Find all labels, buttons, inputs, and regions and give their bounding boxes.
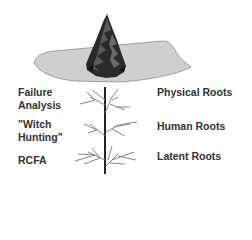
label-line: Hunting": [18, 131, 63, 144]
label-rcfa: RCFA: [18, 154, 47, 167]
label-physical-roots: Physical Roots: [157, 86, 232, 99]
label-text: Latent Roots: [157, 150, 221, 163]
label-latent-roots: Latent Roots: [157, 150, 221, 163]
label-line: Analysis: [18, 99, 61, 112]
label-line: "Witch: [18, 118, 63, 131]
label-text: Human Roots: [157, 120, 225, 133]
label-line: RCFA: [18, 154, 47, 167]
label-line: Failure: [18, 86, 61, 99]
label-witch-hunting: "Witch Hunting": [18, 118, 63, 144]
label-text: Physical Roots: [157, 86, 232, 99]
label-human-roots: Human Roots: [157, 120, 225, 133]
label-failure-analysis: Failure Analysis: [18, 86, 61, 112]
